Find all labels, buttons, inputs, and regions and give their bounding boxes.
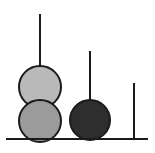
marker-middle bbox=[70, 100, 110, 140]
plot-canvas bbox=[0, 0, 155, 153]
stem-plot-figure bbox=[0, 0, 155, 153]
marker-lower-left bbox=[19, 100, 61, 142]
